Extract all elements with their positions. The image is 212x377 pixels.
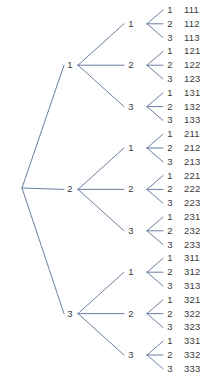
edge-root-to-level1 (22, 188, 64, 314)
edge-level2-to-leaf (147, 148, 163, 162)
outcome-223: 223 (184, 198, 200, 208)
edge-level2-to-leaf (147, 10, 163, 24)
outcome-131: 131 (184, 88, 200, 98)
edge-level2-to-leaf (147, 355, 163, 369)
level2-node-1: 1 (128, 19, 133, 29)
edge-level2-to-leaf (147, 272, 163, 286)
outcome-213: 213 (184, 157, 200, 167)
outcome-122: 122 (184, 60, 200, 70)
leaf-branch-323: 3 (167, 323, 172, 333)
outcome-333: 333 (184, 364, 200, 374)
leaf-branch-321: 1 (167, 295, 172, 305)
edge-level2-to-leaf (147, 134, 163, 148)
edge-level2-to-leaf (147, 231, 163, 245)
leaf-branch-122: 2 (167, 60, 172, 70)
level1-node-2: 2 (67, 185, 72, 195)
outcome-312: 312 (184, 267, 200, 277)
level2-node-1: 1 (128, 267, 133, 277)
leaf-branch-311: 1 (167, 254, 172, 264)
edge-level1-to-level2 (78, 148, 124, 189)
outcome-321: 321 (184, 295, 200, 305)
outcome-322: 322 (184, 309, 200, 319)
level2-node-2: 2 (128, 60, 133, 70)
outcome-233: 233 (184, 240, 200, 250)
edge-level1-to-level2 (78, 189, 124, 230)
outcome-111: 111 (184, 5, 199, 15)
leaf-branch-132: 2 (167, 102, 172, 112)
leaf-branch-331: 1 (167, 336, 172, 346)
outcome-212: 212 (184, 143, 200, 153)
leaf-branch-233: 3 (167, 240, 172, 250)
outcome-121: 121 (184, 47, 200, 57)
outcome-332: 332 (184, 350, 200, 360)
level2-node-3: 3 (128, 226, 133, 236)
edge-level2-to-leaf (147, 24, 163, 38)
leaf-branch-112: 2 (167, 19, 172, 29)
leaf-branch-121: 1 (167, 47, 172, 57)
outcome-123: 123 (184, 74, 200, 84)
leaf-branch-231: 1 (167, 212, 172, 222)
level1-node-3: 3 (67, 309, 72, 319)
outcome-222: 222 (184, 185, 200, 195)
leaf-branch-322: 2 (167, 309, 172, 319)
level2-node-2: 2 (128, 185, 133, 195)
leaf-branch-221: 1 (167, 171, 172, 181)
edge-root-to-level1 (22, 188, 64, 189)
outcome-231: 231 (184, 212, 200, 222)
level1-node-1: 1 (67, 60, 72, 70)
leaf-branch-113: 3 (167, 33, 172, 43)
edge-level2-to-leaf (147, 51, 163, 65)
edge-level1-to-level2 (78, 272, 124, 313)
outcome-113: 113 (184, 33, 200, 43)
level2-node-3: 3 (128, 102, 133, 112)
tree-diagram: 1231231231231111211231131121212231231131… (0, 0, 212, 377)
leaf-branch-222: 2 (167, 185, 172, 195)
outcome-232: 232 (184, 226, 200, 236)
edge-level2-to-leaf (147, 107, 163, 121)
edge-level2-to-leaf (147, 189, 163, 203)
outcome-211: 211 (184, 129, 200, 139)
leaf-branch-223: 3 (167, 198, 172, 208)
edge-level2-to-leaf (147, 258, 163, 272)
level2-node-2: 2 (128, 309, 133, 319)
leaf-branch-213: 3 (167, 157, 172, 167)
leaf-branch-332: 2 (167, 350, 172, 360)
leaf-branch-333: 3 (167, 364, 172, 374)
edge-level2-to-leaf (147, 217, 163, 231)
leaf-branch-212: 2 (167, 143, 172, 153)
edge-level1-to-level2 (78, 24, 124, 65)
edge-level2-to-leaf (147, 176, 163, 190)
outcome-112: 112 (184, 19, 200, 29)
leaf-branch-313: 3 (167, 281, 172, 291)
leaf-branch-211: 1 (167, 129, 172, 139)
edge-level2-to-leaf (147, 65, 163, 79)
outcome-313: 313 (184, 281, 200, 291)
edge-level2-to-leaf (147, 300, 163, 314)
outcome-323: 323 (184, 323, 200, 333)
leaf-branch-123: 3 (167, 74, 172, 84)
outcome-311: 311 (184, 254, 200, 264)
leaf-branch-232: 2 (167, 226, 172, 236)
leaf-branch-133: 3 (167, 116, 172, 126)
edge-root-to-level1 (22, 65, 64, 188)
tree-edges (0, 0, 212, 377)
level2-node-1: 1 (128, 143, 133, 153)
edge-level2-to-leaf (147, 314, 163, 328)
level2-node-3: 3 (128, 350, 133, 360)
outcome-133: 133 (184, 116, 200, 126)
leaf-branch-131: 1 (167, 88, 172, 98)
edge-level2-to-leaf (147, 341, 163, 355)
outcome-132: 132 (184, 102, 200, 112)
leaf-branch-111: 1 (167, 5, 172, 15)
outcome-221: 221 (184, 171, 200, 181)
edge-level1-to-level2 (78, 65, 124, 106)
leaf-branch-312: 2 (167, 267, 172, 277)
outcome-331: 331 (184, 336, 200, 346)
edge-level2-to-leaf (147, 93, 163, 107)
edge-level1-to-level2 (78, 314, 124, 355)
